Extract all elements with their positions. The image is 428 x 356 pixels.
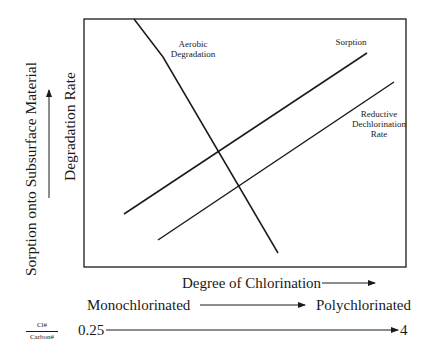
chlorine-carbon-ratio-label: Cl# Carbon# bbox=[22, 322, 62, 341]
aerobic-label-line1: Aerobic bbox=[168, 40, 218, 49]
polychlorinated-label: Polychlorinated bbox=[316, 298, 411, 313]
ratio-min-label: 0.25 bbox=[78, 323, 104, 338]
reductive-label-line2: Dechlorination bbox=[346, 120, 412, 129]
y-axis-outer-label: Sorption onto Subsurface Material bbox=[23, 62, 39, 276]
sorption-label: Sorption bbox=[330, 38, 372, 47]
reductive-label-line1: Reductive bbox=[346, 110, 412, 119]
sorption-curve bbox=[124, 53, 367, 214]
monochlorinated-label: Monochlorinated bbox=[87, 298, 190, 313]
ratio-numerator: Cl# bbox=[22, 322, 62, 329]
aerobic-degradation-label: Aerobic Degradation bbox=[168, 40, 218, 59]
reductive-label-line3: Rate bbox=[346, 130, 412, 139]
aerobic-label-line2: Degradation bbox=[168, 50, 218, 59]
ratio-max-label: 4 bbox=[400, 323, 408, 338]
sorption-label-line1: Sorption bbox=[330, 38, 372, 47]
fraction-bar bbox=[26, 331, 58, 332]
x-axis-label: Degree of Chlorination bbox=[182, 276, 321, 291]
plot-frame bbox=[84, 19, 406, 267]
reductive-dechlorination-label: Reductive Dechlorination Rate bbox=[346, 110, 412, 139]
reductive-dechlorination-curve bbox=[158, 82, 394, 240]
y-axis-inner-label: Degradation Rate bbox=[62, 72, 78, 181]
ratio-denominator: Carbon# bbox=[22, 334, 62, 341]
